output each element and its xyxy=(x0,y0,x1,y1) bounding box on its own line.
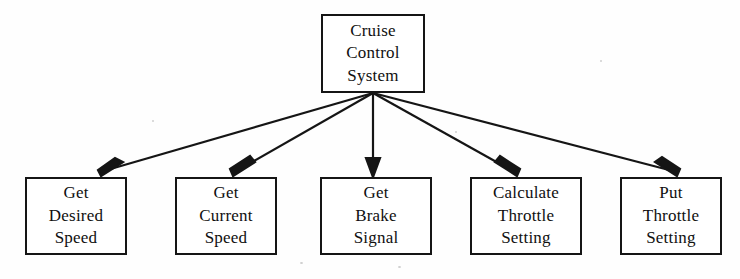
node-label-line: Signal xyxy=(354,227,399,250)
structure-chart-canvas: Cruise Control System Get Desired Speed … xyxy=(0,0,740,279)
node-label-line: Speed xyxy=(205,227,248,250)
node-label-line: Current xyxy=(199,205,252,228)
node-label-line: Calculate xyxy=(493,182,559,205)
node-label-line: System xyxy=(347,65,398,88)
edge-to-put-throttle-setting xyxy=(373,93,669,170)
node-label-line: Get xyxy=(363,182,388,205)
node-label-line: Get xyxy=(63,182,88,205)
node-label-line: Setting xyxy=(646,227,696,250)
arrowhead-get-current-speed xyxy=(230,156,255,176)
node-label-line: Setting xyxy=(501,227,551,250)
arrowhead-calculate-throttle-setting xyxy=(495,156,520,176)
node-label-line: Speed xyxy=(55,227,98,250)
node-label-line: Control xyxy=(346,42,399,65)
node-get-brake-signal[interactable]: Get Brake Signal xyxy=(320,177,432,255)
edge-to-get-desired-speed xyxy=(107,93,373,170)
arrowhead-get-brake-signal xyxy=(366,158,380,177)
node-put-throttle-setting[interactable]: Put Throttle Setting xyxy=(620,177,722,255)
node-get-desired-speed[interactable]: Get Desired Speed xyxy=(25,177,127,255)
edge-to-calculate-throttle-setting xyxy=(373,93,509,169)
edge-to-get-current-speed xyxy=(240,93,373,169)
node-calculate-throttle-setting[interactable]: Calculate Throttle Setting xyxy=(470,177,582,255)
node-cruise-control-system[interactable]: Cruise Control System xyxy=(321,14,425,93)
node-label-line: Cruise xyxy=(350,20,396,43)
node-label-line: Put xyxy=(659,182,682,205)
node-get-current-speed[interactable]: Get Current Speed xyxy=(175,177,277,255)
node-label-line: Get xyxy=(213,182,238,205)
node-label-line: Throttle xyxy=(643,205,699,228)
node-label-line: Desired xyxy=(49,205,103,228)
node-label-line: Brake xyxy=(355,205,397,228)
node-label-line: Throttle xyxy=(498,205,554,228)
